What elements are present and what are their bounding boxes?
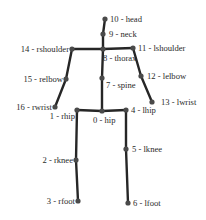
joint-lwrist [149, 99, 154, 104]
joint-hip [99, 108, 104, 113]
joint-label-spine: 7 - spine [106, 80, 136, 90]
joint-label-rknee: 2 - rknee [42, 155, 73, 165]
joint-head [102, 16, 107, 21]
bone-hip-lhip [102, 110, 126, 111]
joint-lknee [123, 146, 128, 151]
joint-rhip [74, 107, 79, 112]
joint-lelbow [138, 73, 143, 78]
joint-label-neck: 9 - neck [109, 29, 137, 39]
joint-label-lfoot: 6 - lfoot [133, 198, 161, 208]
joint-rshoulder [69, 46, 74, 51]
skeleton-diagram: 0 - hip1 - rhip2 - rknee3 - rfoot4 - lhi… [0, 0, 206, 220]
joint-lfoot [125, 200, 130, 205]
joint-label-hip: 0 - hip [93, 115, 115, 125]
joint-label-lelbow: 12 - lelbow [147, 71, 187, 81]
bone-lknee-lfoot [126, 149, 128, 203]
joint-label-lwrist: 13 - lwrist [161, 97, 197, 107]
joint-label-head: 10 - head [110, 14, 143, 24]
joint-lshoulder [130, 45, 135, 50]
joint-spine [99, 75, 104, 80]
joint-label-rfoot: 3 - rfoot [47, 196, 76, 206]
joint-rfoot [75, 198, 80, 203]
joint-label-thorax: 8 - thorax [103, 53, 137, 63]
joint-label-rhip: 1 - rhip [50, 111, 75, 121]
joint-rknee [73, 157, 78, 162]
joint-label-lknee: 5 - lknee [132, 144, 162, 154]
joint-rwrist [52, 104, 57, 109]
joint-label-rwrist: 16 - rwrist [16, 102, 52, 112]
bone-rhip-rknee [76, 110, 77, 160]
joint-label-relbow: 15 - relbow [23, 74, 63, 84]
bone-rknee-rfoot [76, 160, 78, 201]
joint-neck [100, 31, 105, 36]
joint-thorax [100, 46, 105, 51]
joint-lhip [123, 107, 128, 112]
joint-relbow [63, 76, 68, 81]
joint-label-rshoulder: 14 - rshoulder [21, 44, 69, 54]
joint-label-lhip: 4 - lhip [131, 105, 156, 115]
bone-rhip-hip [77, 110, 102, 111]
joint-label-lshoulder: 11 - lshoulder [138, 43, 186, 53]
bone-thorax-lshoulder [103, 48, 133, 49]
